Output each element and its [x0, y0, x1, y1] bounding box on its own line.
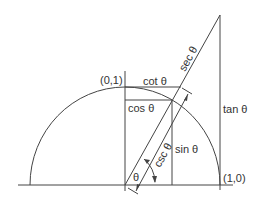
label-sin: sin θ — [175, 143, 198, 155]
theta-arrow-top-icon — [144, 159, 150, 164]
label-cot: cot θ — [143, 75, 167, 87]
label-csc: csc θ — [151, 141, 174, 169]
label-cos: cos θ — [128, 102, 154, 114]
csc-arrow-top-icon — [184, 94, 188, 101]
unit-circle-diagram: (0,1) cot θ cos θ sin θ tan θ (1,0) θ se… — [0, 0, 263, 213]
label-point-top: (0,1) — [100, 74, 123, 86]
label-theta: θ — [133, 171, 139, 183]
label-tan: tan θ — [223, 103, 247, 115]
label-point-right: (1,0) — [223, 172, 246, 184]
csc-tick-top — [182, 88, 192, 94]
